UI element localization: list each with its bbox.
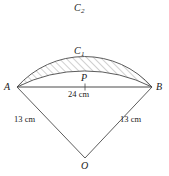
- label-point-p: P: [81, 73, 87, 83]
- geometry-figure: C2 C1 P A B O 24 cm 13 cm 13 cm: [0, 0, 169, 176]
- label-chord-length: 24 cm: [68, 90, 89, 99]
- label-point-b: B: [156, 82, 162, 92]
- label-arc-c1: C1: [74, 46, 84, 56]
- figure-canvas: [0, 0, 169, 176]
- label-arc-c2: C2: [74, 3, 84, 13]
- label-left-radius-length: 13 cm: [14, 115, 35, 124]
- label-right-radius-length: 13 cm: [120, 115, 141, 124]
- label-point-o: O: [81, 161, 88, 171]
- label-point-a: A: [4, 82, 10, 92]
- radius-ob: [85, 87, 152, 158]
